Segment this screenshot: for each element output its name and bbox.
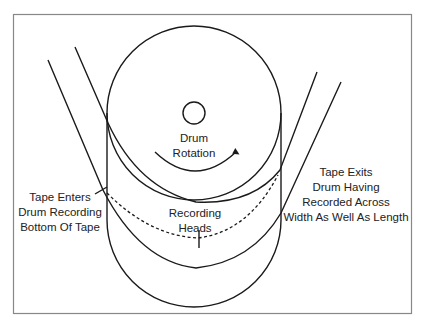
drum-top-arc <box>107 26 281 113</box>
tape-enters-line-3: Bottom Of Tape <box>20 221 100 233</box>
label-tape-enters: Tape Enters Drum Recording Bottom Of Tap… <box>18 191 102 233</box>
drum-rotation-line-1: Drum <box>180 132 208 144</box>
tape-bottom-edge <box>48 60 341 268</box>
helical-scan-diagram: Drum Rotation Recording Heads Tape Enter… <box>0 0 423 323</box>
tape-exits-line-1: Tape Exits <box>319 166 372 178</box>
diagram-frame <box>14 15 412 314</box>
tape-enters-line-2: Drum Recording <box>18 206 102 218</box>
label-drum-rotation: Drum Rotation <box>173 132 216 159</box>
tape-exits-line-4: Width As Well As Length <box>283 211 408 223</box>
tape-exits-line-3: Recorded Across <box>302 196 390 208</box>
label-recording-heads: Recording Heads <box>169 207 221 234</box>
drum-rotation-line-2: Rotation <box>173 147 216 159</box>
recording-heads-line-2: Heads <box>178 222 211 234</box>
tape-exits-line-2: Drum Having <box>312 181 379 193</box>
drum-spindle <box>183 102 205 124</box>
label-tape-exits: Tape Exits Drum Having Recorded Across W… <box>283 166 408 223</box>
recording-heads-line-1: Recording <box>169 207 221 219</box>
tape-enters-line-1: Tape Enters <box>29 191 91 203</box>
